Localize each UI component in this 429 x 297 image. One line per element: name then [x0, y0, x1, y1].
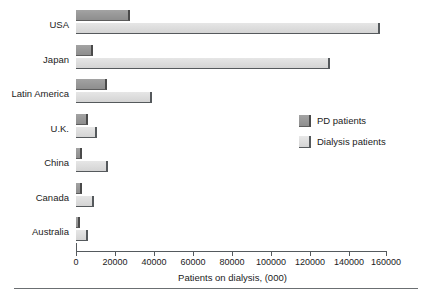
x-tick-label: 40000: [141, 258, 166, 267]
bar-pd-china: [76, 148, 82, 159]
legend-item-dialysis-patients: Dialysis patients: [299, 133, 386, 150]
category-row-latin-america: Latin America: [76, 77, 396, 112]
x-axis-title: Patients on dialysis, (000): [0, 272, 429, 283]
x-tick-label: 20000: [102, 258, 127, 267]
x-tick-mark: [232, 251, 233, 256]
category-label-japan: Japan: [43, 55, 69, 65]
category-row-usa: USA: [76, 8, 396, 43]
x-tick-mark: [310, 251, 311, 256]
x-tick-label: 80000: [219, 258, 244, 267]
bar-pd-canada: [76, 183, 82, 194]
category-row-japan: Japan: [76, 43, 396, 78]
x-tick-mark: [76, 251, 77, 256]
bar-dialysis-canada: [76, 196, 94, 207]
x-tick-mark: [271, 251, 272, 256]
category-label-usa: USA: [49, 21, 69, 31]
bar-dialysis-australia: [76, 230, 88, 241]
bar-pd-uk: [76, 114, 88, 125]
bar-pd-australia: [76, 217, 80, 228]
chart-legend: PD patients Dialysis patients: [299, 112, 386, 154]
bar-pd-latin-america: [76, 79, 107, 90]
bar-dialysis-japan: [76, 58, 330, 69]
horizontal-bar-chart: USA Japan Latin America U.K. China: [0, 0, 429, 297]
x-tick-mark: [115, 251, 116, 256]
pd-swatch-icon: [299, 115, 311, 127]
category-row-canada: Canada: [76, 181, 396, 216]
x-tick-mark: [193, 251, 194, 256]
x-tick-mark: [386, 251, 387, 256]
bar-dialysis-uk: [76, 127, 97, 138]
category-label-australia: Australia: [32, 228, 69, 238]
x-axis-line: [76, 251, 386, 252]
x-tick-label: 140000: [334, 258, 364, 267]
category-row-australia: Australia: [76, 215, 396, 250]
x-tick-mark: [349, 251, 350, 256]
dialysis-swatch-icon: [299, 136, 311, 148]
bar-dialysis-usa: [76, 23, 380, 34]
bar-dialysis-latin-america: [76, 92, 152, 103]
category-label-canada: Canada: [36, 193, 69, 203]
x-tick-label: 160000: [371, 258, 401, 267]
bar-pd-usa: [76, 10, 130, 21]
category-label-china: China: [44, 159, 69, 169]
x-tick-label: 120000: [295, 258, 325, 267]
legend-label-pd-patients: PD patients: [317, 116, 366, 126]
bar-pd-japan: [76, 45, 93, 56]
category-label-uk: U.K.: [51, 124, 69, 134]
category-label-latin-america: Latin America: [11, 90, 69, 100]
figure-bottom-rule: [14, 288, 418, 289]
bar-dialysis-china: [76, 161, 108, 172]
x-tick-label: 0: [73, 258, 78, 267]
x-tick-label: 60000: [180, 258, 205, 267]
x-tick-label: 100000: [256, 258, 286, 267]
legend-label-dialysis-patients: Dialysis patients: [317, 137, 386, 147]
x-tick-mark: [154, 251, 155, 256]
legend-item-pd-patients: PD patients: [299, 112, 386, 129]
